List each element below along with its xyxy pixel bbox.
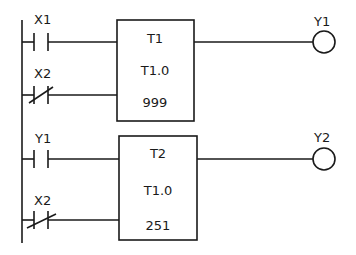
contact-x2-normally-closed: X2 <box>22 66 117 104</box>
block-preset: 251 <box>146 218 171 233</box>
contact-label: Y1 <box>34 131 51 146</box>
block-timebase: T1.0 <box>140 63 170 78</box>
block-timebase: T1.0 <box>143 183 173 198</box>
contact-label: X2 <box>34 193 51 208</box>
timer-block-t1: T1 T1.0 999 <box>117 20 194 121</box>
coil-icon <box>313 148 335 170</box>
contact-y1-normally-open: Y1 <box>22 131 119 168</box>
coil-label: Y2 <box>313 130 330 145</box>
contact-label: X2 <box>34 66 51 81</box>
contact-x2-normally-closed: X2 <box>22 193 119 229</box>
rung-1: X1 X2 T1 T1.0 999 Y1 <box>22 12 335 121</box>
contact-x1-normally-open: X1 <box>22 12 117 51</box>
ladder-diagram: X1 X2 T1 T1.0 999 Y1 <box>0 0 356 255</box>
contact-label: X1 <box>34 12 51 27</box>
coil-icon <box>313 31 335 53</box>
block-preset: 999 <box>143 95 168 110</box>
block-name: T1 <box>146 31 163 46</box>
block-name: T2 <box>149 146 166 161</box>
coil-label: Y1 <box>313 14 330 29</box>
coil-y2: Y2 <box>313 130 335 170</box>
timer-block-t2: T2 T1.0 251 <box>119 136 197 240</box>
coil-y1: Y1 <box>313 14 335 53</box>
rung-2: Y1 X2 T2 T1.0 251 Y2 <box>22 130 335 240</box>
